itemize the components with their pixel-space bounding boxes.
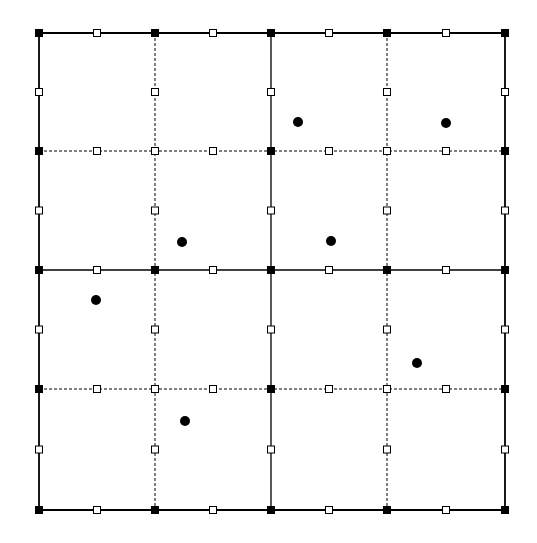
- filled-node-square: [268, 386, 275, 393]
- open-node-square: [384, 148, 391, 155]
- open-node-square: [443, 148, 450, 155]
- open-node-square: [152, 446, 159, 453]
- sample-point-dot: [326, 236, 336, 246]
- filled-node-square: [502, 148, 509, 155]
- open-node-square: [94, 267, 101, 274]
- open-node-square: [443, 386, 450, 393]
- open-node-square: [36, 326, 43, 333]
- open-node-square: [502, 326, 509, 333]
- filled-node-square: [152, 30, 159, 37]
- filled-node-square: [36, 507, 43, 514]
- filled-node-square: [268, 30, 275, 37]
- filled-node-square: [502, 507, 509, 514]
- open-node-square: [152, 386, 159, 393]
- open-node-square: [268, 326, 275, 333]
- filled-node-square: [36, 30, 43, 37]
- open-node-square: [326, 148, 333, 155]
- filled-node-square: [268, 267, 275, 274]
- open-node-square: [268, 207, 275, 214]
- grid-diagram: [0, 0, 537, 543]
- filled-node-square: [384, 30, 391, 37]
- open-node-square: [443, 30, 450, 37]
- filled-node-square: [268, 148, 275, 155]
- filled-node-square: [152, 507, 159, 514]
- open-node-square: [384, 326, 391, 333]
- open-node-square: [210, 30, 217, 37]
- open-node-square: [210, 507, 217, 514]
- open-node-square: [152, 89, 159, 96]
- open-node-square: [268, 89, 275, 96]
- open-node-square: [94, 507, 101, 514]
- open-node-square: [210, 267, 217, 274]
- open-node-square: [384, 446, 391, 453]
- filled-node-square: [502, 386, 509, 393]
- open-node-square: [326, 267, 333, 274]
- open-node-square: [36, 207, 43, 214]
- filled-node-square: [152, 267, 159, 274]
- open-node-square: [210, 148, 217, 155]
- open-node-square: [36, 89, 43, 96]
- open-node-square: [94, 30, 101, 37]
- open-node-square: [152, 207, 159, 214]
- open-node-square: [443, 267, 450, 274]
- open-node-square: [326, 507, 333, 514]
- open-node-square: [502, 207, 509, 214]
- filled-node-square: [36, 267, 43, 274]
- open-node-square: [268, 446, 275, 453]
- open-node-square: [36, 446, 43, 453]
- sample-point-dot: [180, 416, 190, 426]
- filled-node-square: [502, 30, 509, 37]
- open-node-square: [326, 30, 333, 37]
- filled-node-square: [502, 267, 509, 274]
- open-node-square: [152, 148, 159, 155]
- open-node-square: [94, 148, 101, 155]
- open-node-square: [502, 446, 509, 453]
- filled-node-square: [36, 386, 43, 393]
- filled-node-square: [384, 507, 391, 514]
- open-node-square: [210, 386, 217, 393]
- sample-point-dot: [441, 118, 451, 128]
- open-node-square: [152, 326, 159, 333]
- sample-point-dot: [177, 237, 187, 247]
- open-node-square: [384, 207, 391, 214]
- sample-point-dot: [412, 358, 422, 368]
- open-node-square: [326, 386, 333, 393]
- filled-node-square: [36, 148, 43, 155]
- open-node-square: [443, 507, 450, 514]
- open-node-square: [94, 386, 101, 393]
- filled-node-square: [268, 507, 275, 514]
- sample-point-dot: [293, 117, 303, 127]
- grid-nodes: [36, 30, 509, 514]
- filled-node-square: [384, 267, 391, 274]
- open-node-square: [502, 89, 509, 96]
- open-node-square: [384, 386, 391, 393]
- sample-point-dot: [91, 295, 101, 305]
- open-node-square: [384, 89, 391, 96]
